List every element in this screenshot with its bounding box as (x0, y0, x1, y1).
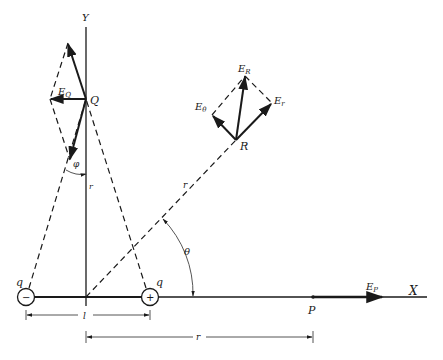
r-parallelogram-dash-2 (245, 76, 272, 103)
l-dimension: l (26, 310, 150, 321)
negative-charge: − (18, 289, 35, 306)
r-radial-label: Er (273, 95, 285, 108)
q-field-from-negative (70, 99, 86, 159)
r-diagonal-label: r (183, 180, 188, 190)
positive-charge-label: q (156, 276, 163, 289)
theta-label: θ (184, 246, 190, 257)
positive-sign: + (146, 292, 154, 303)
theta-angle-arc (163, 219, 193, 296)
point-q-label: Q (90, 94, 99, 107)
r-horizontal-dimension: r (86, 331, 313, 343)
q-field-label: EQ (57, 86, 71, 99)
r-horizontal-label: r (196, 332, 201, 342)
negative-charge-label: q (16, 276, 23, 289)
q-parallelogram-dash-2 (50, 99, 70, 160)
dipole-field-diagram: Y X − q + q EQ Q φ r r θ ER Er Eθ R EP P (0, 0, 443, 360)
r-theta-field (213, 116, 236, 140)
p-field-label: EP (365, 281, 378, 294)
x-axis-label: X (408, 284, 418, 298)
r-resultant-label: ER (237, 63, 251, 76)
l-label: l (83, 311, 86, 321)
point-p-label: P (307, 304, 316, 317)
phi-label: φ (73, 159, 80, 169)
r-resultant-field (236, 77, 245, 140)
r-theta-label: Eθ (194, 101, 207, 114)
dashed-line-pos-to-q (86, 99, 146, 288)
positive-charge: + (142, 289, 159, 306)
point-r-label: R (239, 140, 248, 153)
negative-sign: − (22, 292, 30, 303)
r-vertical-label: r (89, 182, 94, 191)
dashed-line-origin-to-r (86, 140, 236, 297)
phi-angle-arc (66, 170, 86, 175)
y-axis-label: Y (82, 12, 90, 23)
